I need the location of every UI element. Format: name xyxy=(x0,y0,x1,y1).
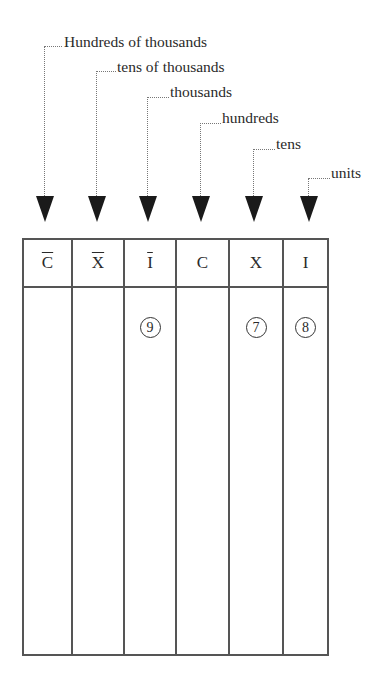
leader-v-1 xyxy=(96,71,97,196)
leader-h-4 xyxy=(253,149,275,150)
label-tens: tens xyxy=(276,136,301,152)
place-value-table: C X I C X I 9 7 8 xyxy=(22,238,329,656)
circled-digit: 7 xyxy=(246,317,267,338)
header-text: X xyxy=(92,253,104,272)
leader-v-0 xyxy=(44,46,45,196)
leader-h-1 xyxy=(96,71,116,72)
cell-hundreds-of-thousands xyxy=(23,287,72,655)
leader-v-4 xyxy=(253,149,254,196)
leader-h-0 xyxy=(44,46,62,47)
value-row: 9 7 8 xyxy=(23,287,328,655)
cell-tens: 7 xyxy=(229,287,283,655)
header-text: C xyxy=(197,253,208,272)
cell-hundreds xyxy=(176,287,229,655)
down-arrow-icon xyxy=(192,196,210,222)
header-tens-of-thousands: X xyxy=(72,239,124,287)
header-text: X xyxy=(250,253,262,272)
leader-v-5 xyxy=(308,178,309,196)
label-units: units xyxy=(331,165,361,181)
cell-tens-of-thousands xyxy=(72,287,124,655)
circled-digit: 8 xyxy=(295,317,316,338)
header-hundreds-of-thousands: C xyxy=(23,239,72,287)
header-text: C xyxy=(42,253,53,272)
leader-v-3 xyxy=(200,123,201,196)
circled-digit: 9 xyxy=(140,317,161,338)
leader-v-2 xyxy=(147,97,148,196)
cell-thousands: 9 xyxy=(124,287,176,655)
header-tens: X xyxy=(229,239,283,287)
down-arrow-icon xyxy=(245,196,263,222)
header-text: I xyxy=(147,253,153,272)
header-thousands: I xyxy=(124,239,176,287)
label-hundreds: hundreds xyxy=(222,110,279,126)
leader-h-3 xyxy=(200,123,221,124)
header-text: I xyxy=(303,253,309,272)
down-arrow-icon xyxy=(300,196,318,222)
leader-h-2 xyxy=(147,97,169,98)
cell-units: 8 xyxy=(283,287,328,655)
down-arrow-icon xyxy=(36,196,54,222)
header-hundreds: C xyxy=(176,239,229,287)
header-units: I xyxy=(283,239,328,287)
down-arrow-icon xyxy=(88,196,106,222)
label-tens-of-thousands: tens of thousands xyxy=(117,59,225,75)
header-row: C X I C X I xyxy=(23,239,328,287)
label-thousands: thousands xyxy=(170,84,232,100)
down-arrow-icon xyxy=(139,196,157,222)
label-hundreds-of-thousands: Hundreds of thousands xyxy=(64,34,207,50)
leader-h-5 xyxy=(308,178,330,179)
